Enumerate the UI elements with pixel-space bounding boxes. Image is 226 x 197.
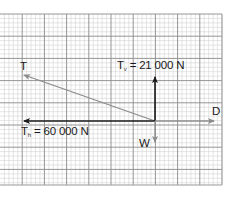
label-Th-subscript: h xyxy=(28,132,31,138)
label-W: W xyxy=(139,138,150,150)
label-D-symbol: D xyxy=(212,105,220,117)
label-Th-equals: = xyxy=(34,125,41,137)
label-Tv-equals: = xyxy=(130,59,137,71)
label-Tv: Tv = 21 000 N xyxy=(117,60,184,72)
label-Tv-symbol: T xyxy=(117,59,124,71)
label-T-symbol: T xyxy=(20,60,27,72)
vector-t xyxy=(24,75,155,121)
label-T: T xyxy=(20,61,27,73)
label-Tv-subscript: v xyxy=(124,66,127,72)
label-Th-symbol: T xyxy=(21,125,28,137)
label-Tv-value: 21 000 N xyxy=(139,59,184,71)
graph-paper-grid xyxy=(0,14,222,185)
label-W-symbol: W xyxy=(139,137,150,149)
label-Th-value: 60 000 N xyxy=(44,125,89,137)
label-Th: Th = 60 000 N xyxy=(21,126,89,138)
force-diagram xyxy=(0,0,226,197)
label-D: D xyxy=(212,106,220,118)
